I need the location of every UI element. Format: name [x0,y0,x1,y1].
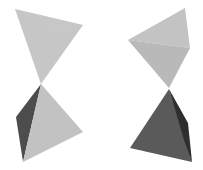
left-bottom-tetrahedron [16,84,83,162]
left-pair [15,9,83,162]
right-pair [128,8,192,162]
right-bottom-tetrahedron [130,89,192,162]
face [23,84,83,162]
tetrahedra-figure [0,0,203,170]
face [128,40,190,88]
right-top-tetrahedron [128,8,190,88]
left-top-tetrahedron [15,9,83,84]
